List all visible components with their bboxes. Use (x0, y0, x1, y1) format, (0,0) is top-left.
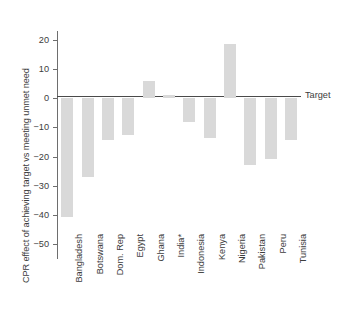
y-axis-tick-label: 20 (9, 35, 49, 45)
x-axis-tick-label: Ghana (154, 234, 168, 309)
bar (224, 44, 236, 99)
bar (244, 98, 256, 165)
bar (61, 98, 73, 217)
x-axis-tick-label: Peru (276, 234, 290, 309)
y-axis-tick-label: −30 (9, 181, 49, 191)
x-axis-tick-label: Pakistan (255, 234, 269, 309)
x-axis-tick-label: Nigeria (235, 234, 249, 309)
bar (265, 98, 277, 159)
x-axis-tick-label: Indonesia (194, 234, 208, 309)
x-axis-tick-label: Egypt (133, 234, 147, 309)
chart-figure: CPR effect of achieving target vs meetin… (0, 0, 341, 309)
x-axis-tick-label: India* (174, 234, 188, 309)
bar (163, 95, 175, 99)
x-axis-tick-label: Kenya (215, 234, 229, 309)
x-axis-tick-label: Dom. Rep (113, 234, 127, 309)
bar (183, 98, 195, 121)
bar (143, 81, 155, 98)
bar (122, 98, 134, 135)
y-axis-tick-label: −20 (9, 152, 49, 162)
x-axis-tick-label: Bangladesh (72, 234, 86, 309)
y-axis-tick-label: −40 (9, 210, 49, 220)
y-axis-tick-label: 0 (9, 93, 49, 103)
target-annotation-label: Target (305, 90, 331, 101)
bar (285, 98, 297, 140)
y-axis-tick-label: −50 (9, 239, 49, 249)
plot-area (57, 31, 301, 259)
x-axis-tick-label: Botswana (93, 234, 107, 309)
y-axis-tick-label: 10 (9, 64, 49, 74)
x-axis-tick-label: Tunisia (296, 234, 310, 309)
bar (204, 98, 216, 137)
bar (102, 98, 114, 140)
bar (82, 98, 94, 177)
y-axis-tick-label: −10 (9, 122, 49, 132)
